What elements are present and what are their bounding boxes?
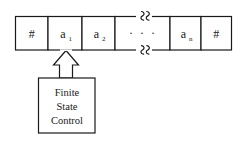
tape-head-arrow[interactable] — [54, 50, 79, 78]
cell-subscript: 1 — [69, 35, 73, 43]
finite-state-control[interactable]: Finite State Control — [39, 78, 96, 133]
cell-subscript: n — [189, 35, 193, 43]
tape-cell-a1[interactable]: a 1 — [48, 17, 82, 51]
cell-label: # — [213, 27, 219, 41]
turing-machine-diagram: # a 1 a 2 · · · a n — [0, 0, 246, 141]
cell-label: # — [29, 27, 35, 41]
cell-label: a — [181, 27, 187, 41]
tape-cell-an[interactable]: a n — [170, 17, 201, 51]
input-tape: # a 1 a 2 · · · a n — [16, 17, 232, 51]
diagram-canvas: # a 1 a 2 · · · a n — [0, 0, 246, 141]
cell-label: a — [94, 27, 100, 41]
control-line-2: State — [57, 101, 78, 112]
arrow-outline — [54, 51, 79, 79]
tape-cell-ellipsis[interactable]: · · · — [115, 17, 170, 51]
control-line-3: Control — [51, 115, 83, 126]
tape-cell-left-marker[interactable]: # — [16, 17, 49, 51]
control-line-1: Finite — [55, 87, 80, 98]
cell-subscript: 2 — [102, 35, 106, 43]
cell-label: a — [60, 27, 66, 41]
ellipsis-label: · · · — [129, 26, 157, 40]
tape-cell-a2[interactable]: a 2 — [82, 17, 115, 51]
tape-cell-right-marker[interactable]: # — [201, 17, 232, 51]
